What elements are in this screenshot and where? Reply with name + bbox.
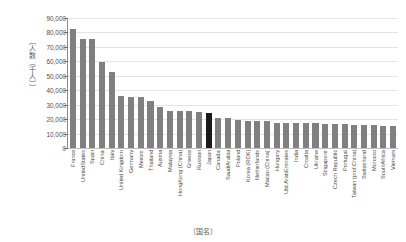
x-axis-tick-label: Thailand bbox=[148, 150, 155, 226]
bar bbox=[70, 29, 76, 148]
bar bbox=[89, 39, 95, 148]
bar bbox=[225, 118, 231, 148]
bar bbox=[147, 101, 153, 148]
x-axis-tick-label: Germany bbox=[128, 150, 135, 226]
bar bbox=[118, 96, 124, 148]
x-axis-tick-label: Singapore bbox=[322, 150, 329, 226]
x-axis-tick-label: Malaysia bbox=[167, 150, 174, 226]
bar bbox=[206, 113, 212, 148]
x-axis-tick-label: Vietnam bbox=[390, 150, 397, 226]
y-axis-tick-mark bbox=[64, 76, 68, 77]
y-axis-tick-mark bbox=[64, 32, 68, 33]
x-axis-tick-label: Macao (China) bbox=[264, 150, 271, 226]
x-axis-tick-label: Croatia bbox=[303, 150, 310, 226]
bar bbox=[186, 111, 192, 148]
bar bbox=[390, 126, 396, 148]
x-axis-tick-labels: FranceUnitedStatesSpainChinaItalyUnited … bbox=[68, 150, 398, 228]
x-axis-tick-label: Netherlands bbox=[254, 150, 261, 226]
x-axis-tick-label: Poland bbox=[235, 150, 242, 226]
x-axis-tick-label: India bbox=[293, 150, 300, 226]
x-axis-tick-label: Japan bbox=[206, 150, 213, 226]
x-axis-tick-label: United Kingdom bbox=[118, 150, 125, 226]
x-axis-tick-label: Spain bbox=[89, 150, 96, 226]
bar bbox=[371, 125, 377, 148]
bar bbox=[264, 121, 270, 148]
bar bbox=[80, 39, 86, 148]
bar bbox=[99, 62, 105, 148]
bar bbox=[177, 111, 183, 148]
bar bbox=[109, 72, 115, 148]
x-axis-tick-label: Canada bbox=[215, 150, 222, 226]
x-axis-tick-label: France bbox=[70, 150, 77, 226]
bar bbox=[361, 125, 367, 148]
y-axis-tick-mark bbox=[64, 105, 68, 106]
x-axis-tick-label: Utd.ArabEmirates bbox=[283, 150, 290, 226]
y-axis-title: 〔人数（千人）〕 bbox=[22, 38, 36, 91]
x-axis-tick-label: China bbox=[99, 150, 106, 226]
x-axis-tick-label: Portugal bbox=[342, 150, 349, 226]
x-axis-tick-label: SouthAfrica bbox=[380, 150, 387, 226]
x-axis-tick-label: Korea (ROK) bbox=[245, 150, 252, 226]
bar bbox=[312, 123, 318, 148]
y-axis-tick-mark bbox=[64, 90, 68, 91]
bar bbox=[157, 107, 163, 148]
bar bbox=[128, 97, 134, 148]
y-axis-tick-mark bbox=[64, 148, 68, 149]
y-axis-tick-mark bbox=[64, 119, 68, 120]
bar bbox=[196, 112, 202, 148]
bar bbox=[254, 121, 260, 148]
bar bbox=[293, 123, 299, 148]
x-axis-tick-label: Czech Republic bbox=[332, 150, 339, 226]
x-axis-tick-label: Ukraine bbox=[313, 150, 320, 226]
x-axis-tick-label: HongKong (China) bbox=[177, 150, 184, 226]
x-axis-tick-label: UnitedStates bbox=[80, 150, 87, 226]
bar-chart: 〔人数（千人）〕 90,00080,00070,00060,00050,0004… bbox=[0, 0, 406, 242]
plot-area bbox=[68, 18, 398, 148]
x-axis-tick-label: Morocco bbox=[371, 150, 378, 226]
x-axis-tick-label: Italy bbox=[109, 150, 116, 226]
bar bbox=[303, 123, 309, 148]
y-axis-tick-mark bbox=[64, 47, 68, 48]
x-axis-tick-label: SaudiArabia bbox=[225, 150, 232, 226]
axis-baseline bbox=[68, 148, 398, 149]
bar bbox=[138, 97, 144, 148]
bar bbox=[245, 121, 251, 148]
x-axis-tick-label: Taiwan (prof.China) bbox=[351, 150, 358, 226]
bar bbox=[283, 123, 289, 148]
y-axis-tick-labels: 90,00080,00070,00060,00050,00040,00030,0… bbox=[36, 0, 66, 242]
bar-series bbox=[68, 18, 398, 148]
x-axis-title: 〔国名〕 bbox=[0, 226, 406, 236]
bar bbox=[332, 124, 338, 148]
bar bbox=[215, 118, 221, 148]
bar bbox=[342, 124, 348, 148]
x-axis-tick-label: Greece bbox=[186, 150, 193, 226]
y-axis-tick-mark bbox=[64, 61, 68, 62]
y-axis-tick-mark bbox=[64, 134, 68, 135]
bar bbox=[167, 111, 173, 148]
bar bbox=[351, 125, 357, 148]
x-axis-tick-label: Mexico bbox=[138, 150, 145, 226]
y-axis-tick-mark bbox=[64, 18, 68, 19]
bar bbox=[235, 120, 241, 148]
x-axis-tick-label: Austria bbox=[157, 150, 164, 226]
x-axis-tick-label: Switzerland bbox=[361, 150, 368, 226]
x-axis-tick-label: Russian bbox=[196, 150, 203, 226]
bar bbox=[274, 123, 280, 148]
bar bbox=[322, 124, 328, 148]
bar bbox=[380, 126, 386, 148]
x-axis-tick-label: Hungary bbox=[274, 150, 281, 226]
